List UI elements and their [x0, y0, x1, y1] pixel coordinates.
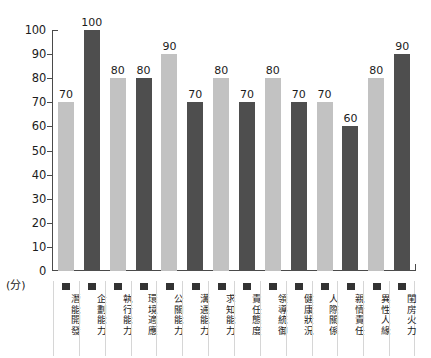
bar-slot: 80 [363, 30, 389, 271]
category-cell[interactable]: 閨房火力 [389, 281, 415, 356]
bar[interactable] [187, 102, 203, 271]
bar[interactable] [394, 54, 410, 271]
legend-swatch-icon [398, 283, 406, 290]
y-axis-tick-label: 80 [0, 70, 46, 86]
y-axis-tick-label: 20 [0, 215, 46, 231]
bar-value-label: 100 [75, 17, 109, 29]
y-axis-tick-label: 100 [0, 22, 46, 38]
y-axis-tick-label: 30 [0, 191, 46, 207]
bar[interactable] [291, 102, 307, 271]
category-label: 執行能力 [106, 294, 132, 336]
legend-swatch-icon [218, 283, 226, 290]
category-label: 公關能力 [157, 294, 183, 336]
category-cell[interactable]: 親情責任 [337, 281, 363, 356]
y-axis-tick-label: 40 [0, 167, 46, 183]
x-axis-end-tick [415, 264, 416, 271]
category-cell[interactable]: 潛能開發 [53, 281, 79, 356]
bar[interactable] [368, 78, 384, 271]
bar-slot: 80 [260, 30, 286, 271]
category-label: 親情責任 [338, 294, 364, 336]
legend-swatch-icon [166, 283, 174, 290]
category-cell[interactable]: 執行能力 [105, 281, 131, 356]
y-axis-tick-label: 90 [0, 46, 46, 62]
category-label: 求知能力 [209, 294, 235, 336]
category-cell[interactable]: 人際關係 [312, 281, 338, 356]
plot-area: 70100808090708070807070608090 [53, 30, 415, 271]
legend-swatch-icon [114, 283, 122, 290]
category-label: 企劃能力 [80, 294, 106, 336]
bar-slot: 70 [312, 30, 338, 271]
category-label: 健康狀況 [287, 294, 313, 336]
bar-slot: 90 [156, 30, 182, 271]
legend-swatch-icon [269, 283, 277, 290]
category-label: 溝通能力 [183, 294, 209, 336]
legend-swatch-icon [243, 283, 251, 290]
bar[interactable] [239, 102, 255, 271]
bar[interactable] [317, 102, 333, 271]
bar-chart: 0102030405060708090100 (分) 7010080809070… [0, 0, 431, 358]
bar[interactable] [136, 78, 152, 271]
bar-slot: 90 [389, 30, 415, 271]
category-cell[interactable]: 環境適應 [131, 281, 157, 356]
category-label: 潛能開發 [54, 294, 80, 336]
category-cell[interactable]: 責任態度 [234, 281, 260, 356]
category-label: 領導統御 [261, 294, 287, 336]
category-label: 閨房火力 [390, 294, 416, 336]
y-axis: 0102030405060708090100 [0, 22, 46, 278]
category-cell[interactable]: 健康狀況 [286, 281, 312, 356]
category-cell[interactable]: 公關能力 [156, 281, 182, 356]
bar-value-label: 90 [385, 41, 419, 53]
legend-swatch-icon [62, 283, 70, 290]
category-cell[interactable]: 領導統御 [260, 281, 286, 356]
bar-slot: 80 [131, 30, 157, 271]
category-cell[interactable]: 求知能力 [208, 281, 234, 356]
y-axis-tick-label: 50 [0, 143, 46, 159]
bar[interactable] [213, 78, 229, 271]
category-cell[interactable]: 企劃能力 [79, 281, 105, 356]
y-axis-unit-label: (分) [6, 276, 26, 292]
category-cell[interactable]: 溝通能力 [182, 281, 208, 356]
legend-swatch-icon [321, 283, 329, 290]
y-axis-tick-label: 70 [0, 94, 46, 110]
bar-slot: 70 [286, 30, 312, 271]
bar[interactable] [161, 54, 177, 271]
legend-swatch-icon [373, 283, 381, 290]
category-label: 責任態度 [235, 294, 261, 336]
category-label: 人際關係 [313, 294, 339, 336]
legend-swatch-icon [295, 283, 303, 290]
bar[interactable] [110, 78, 126, 271]
category-cell[interactable]: 異性人緣 [363, 281, 389, 356]
category-label: 環境適應 [132, 294, 158, 336]
y-axis-tick-label: 60 [0, 118, 46, 134]
legend-swatch-icon [88, 283, 96, 290]
y-axis-tick-label: 10 [0, 239, 46, 255]
category-legend-strip: 潛能開發企劃能力執行能力環境適應公關能力溝通能力求知能力責任態度領導統御健康狀況… [53, 281, 415, 356]
bar[interactable] [342, 126, 358, 271]
category-label: 異性人緣 [364, 294, 390, 336]
legend-swatch-icon [347, 283, 355, 290]
legend-swatch-icon [140, 283, 148, 290]
legend-swatch-icon [192, 283, 200, 290]
bar-slot: 70 [53, 30, 79, 271]
bar-slot: 80 [208, 30, 234, 271]
bar[interactable] [58, 102, 74, 271]
bar[interactable] [84, 30, 100, 271]
bar[interactable] [265, 78, 281, 271]
